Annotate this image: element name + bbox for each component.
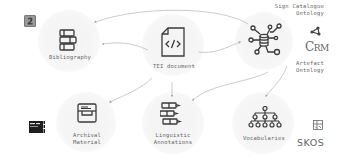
edge-ontology-vocabularies	[266, 66, 287, 96]
sign-catalogue-label-line2: Ontology	[270, 10, 324, 17]
diagram-canvas: Bibliography TEI document Sign Catalogue…	[0, 0, 347, 161]
artefact-label-line1: Artefact	[296, 60, 324, 67]
edge-tei-bibliography	[103, 43, 148, 50]
archive-logo-icon	[29, 121, 47, 133]
bibliography-label: Bibliography	[49, 54, 89, 61]
crm-logo-rm: RM	[314, 43, 329, 53]
skos-grid-icon	[313, 120, 323, 130]
archival-material-label-line1: Archival	[66, 132, 108, 139]
linguistic-annotations-label-line1: Linguistic	[150, 132, 196, 139]
archive-drawer-icon	[76, 103, 98, 123]
edge-ontology-linguistic	[193, 72, 268, 100]
crm-triad-icon	[310, 26, 322, 36]
books-icon	[58, 29, 80, 53]
sign-catalogue-label-line1: Sign Catalogue	[270, 3, 324, 10]
edge-tei-ontology	[198, 42, 240, 52]
skos-logo: SKOS	[297, 137, 324, 148]
battery-bars-icon	[160, 102, 184, 126]
linguistic-annotations-label-line2: Annotations	[150, 139, 196, 146]
crm-logo: CRM	[305, 40, 329, 54]
edge-ontology-bibliography	[95, 10, 248, 24]
hierarchy-tree-icon	[248, 106, 282, 128]
database-network-icon	[248, 22, 284, 58]
vocabularies-label: Vocabularies	[241, 135, 287, 142]
tei-document-label: TEI document	[151, 63, 197, 70]
archival-material-label-line2: Material	[66, 139, 108, 146]
crm-logo-c: C	[305, 40, 314, 54]
code-file-icon	[160, 27, 186, 57]
edge-tei-archival	[110, 78, 152, 102]
artefact-label-line2: Ontology	[296, 67, 324, 74]
zotero-logo-icon	[24, 15, 36, 27]
